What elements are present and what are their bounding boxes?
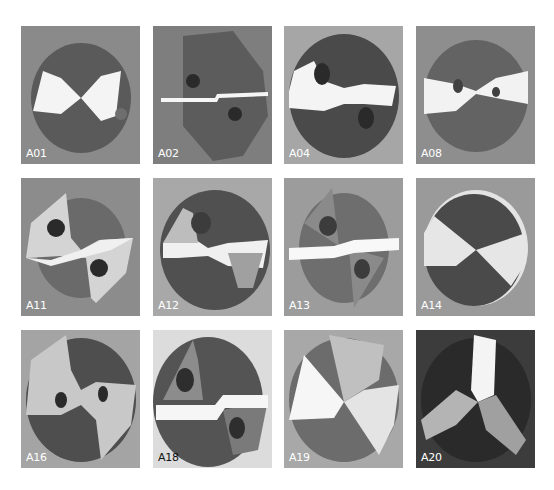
tile-label: A13 — [289, 299, 310, 312]
drill-tip-image — [21, 26, 140, 164]
tile-label: A11 — [26, 299, 47, 312]
tile-label: A01 — [26, 147, 47, 160]
tile-label: A20 — [421, 451, 442, 464]
tile-label: A08 — [421, 147, 442, 160]
drill-tip-image — [21, 178, 140, 316]
drill-photo-a08: A08 — [416, 26, 535, 164]
drill-photo-a16: A16 — [21, 330, 140, 468]
drill-photo-a19: A19 — [284, 330, 403, 468]
tile-label: A19 — [289, 451, 310, 464]
drill-photo-a14: A14 — [416, 178, 535, 316]
drill-tip-image — [284, 178, 403, 316]
drill-photo-a01: A01 — [21, 26, 140, 164]
drill-photo-a13: A13 — [284, 178, 403, 316]
drill-photo-a20: A20 — [416, 330, 535, 468]
tile-label: A12 — [158, 299, 179, 312]
drill-tip-image — [416, 330, 535, 468]
drill-tip-image — [153, 26, 272, 164]
drill-photo-a04: A04 — [284, 26, 403, 164]
drill-tip-image — [153, 178, 272, 316]
drill-tip-image — [21, 330, 140, 468]
drill-tip-image — [416, 26, 535, 164]
tile-label: A16 — [26, 451, 47, 464]
tile-label: A04 — [289, 147, 310, 160]
drill-photo-a18: A18 — [153, 330, 272, 468]
drill-photo-a12: A12 — [153, 178, 272, 316]
drill-tip-image — [284, 26, 403, 164]
drill-tip-image — [284, 330, 403, 468]
tile-label: A14 — [421, 299, 442, 312]
drill-tip-image — [416, 178, 535, 316]
tile-label: A02 — [158, 147, 179, 160]
tile-label: A18 — [158, 451, 179, 464]
drill-tip-image — [153, 330, 272, 468]
drill-photo-a11: A11 — [21, 178, 140, 316]
drill-photo-a02: A02 — [153, 26, 272, 164]
